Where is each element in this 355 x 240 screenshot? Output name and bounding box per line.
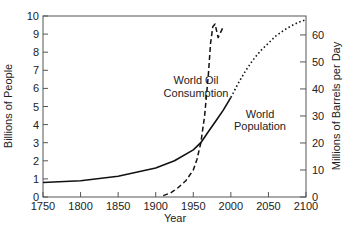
series-world-oil-consumption bbox=[163, 24, 223, 196]
x-tick-label: 1900 bbox=[143, 200, 167, 212]
oil-annotation-line1: World Oil bbox=[173, 74, 218, 86]
y2-tick-label: 30 bbox=[312, 110, 324, 122]
y2-tick-label: 0 bbox=[312, 191, 318, 203]
y-tick-label: 5 bbox=[33, 101, 39, 113]
x-tick-label: 1950 bbox=[181, 200, 205, 212]
oil-annotation-line2: Consumption bbox=[164, 87, 229, 99]
y-tick-label: 1 bbox=[33, 173, 39, 185]
y-tick-label: 9 bbox=[33, 28, 39, 40]
x-axis-label: Year bbox=[164, 212, 187, 224]
y2-tick-label: 60 bbox=[312, 29, 324, 41]
y-tick-label: 8 bbox=[33, 46, 39, 58]
y-tick-label: 10 bbox=[27, 10, 39, 22]
population-annotation-line1: World bbox=[246, 108, 275, 120]
y2-tick-label: 40 bbox=[312, 83, 324, 95]
chart: 1750180018501900195020002050210001234567… bbox=[0, 0, 355, 240]
x-tick-label: 1800 bbox=[68, 200, 92, 212]
series-world-population bbox=[43, 97, 231, 182]
x-tick-label: 2000 bbox=[219, 200, 243, 212]
y-axis-label: Billions of People bbox=[2, 64, 14, 148]
y-tick-label: 0 bbox=[33, 191, 39, 203]
y-tick-label: 2 bbox=[33, 155, 39, 167]
y-tick-label: 7 bbox=[33, 64, 39, 76]
population-annotation-line2: Population bbox=[234, 120, 286, 132]
plot-frame bbox=[43, 16, 306, 197]
x-tick-label: 1850 bbox=[106, 200, 130, 212]
y-tick-label: 4 bbox=[33, 119, 39, 131]
x-tick-label: 2050 bbox=[256, 200, 280, 212]
y-tick-label: 3 bbox=[33, 137, 39, 149]
y2-tick-label: 10 bbox=[312, 164, 324, 176]
y2-tick-label: 50 bbox=[312, 56, 324, 68]
y2-axis-label: Millions of Barrels per Day bbox=[330, 41, 342, 170]
y2-tick-label: 20 bbox=[312, 137, 324, 149]
series-world-population-projected bbox=[231, 20, 306, 98]
y-tick-label: 6 bbox=[33, 82, 39, 94]
